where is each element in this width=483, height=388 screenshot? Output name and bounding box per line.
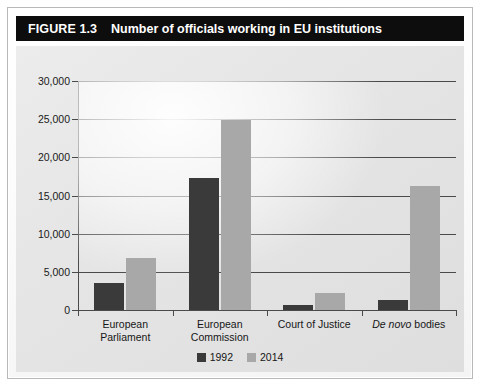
y-axis-tick-label: 20,000 (18, 151, 70, 163)
bar-2014-0 (126, 258, 156, 310)
chart-plot-area: 30,00025,00020,00015,00010,0005,0000 Eur… (16, 46, 464, 372)
legend-item-1992[interactable]: 1992 (197, 351, 233, 363)
chart-legend: 19922014 (16, 351, 464, 363)
bar-2014-1 (221, 120, 251, 310)
category-label-italic: De novo (372, 318, 411, 330)
x-axis-tick (173, 310, 174, 316)
bar-1992-1 (189, 178, 219, 310)
y-axis-tick-label: 0 (18, 304, 70, 316)
category-label-3: De novo bodies (362, 318, 457, 331)
bar-1992-0 (94, 283, 124, 310)
y-axis-tick-label: 10,000 (18, 228, 70, 240)
y-axis-tick-label: 5,000 (18, 266, 70, 278)
legend-swatch-icon (247, 353, 256, 362)
x-axis-tick (78, 310, 79, 316)
bar-2014-2 (315, 293, 345, 310)
x-axis-tick (456, 310, 457, 316)
x-axis-tick (362, 310, 363, 316)
category-label-0: EuropeanParliament (78, 318, 173, 344)
y-axis-tick-label: 30,000 (18, 75, 70, 87)
y-axis-tick-label: 25,000 (18, 113, 70, 125)
figure-title: Number of officials working in EU instit… (111, 22, 382, 36)
figure-card: FIGURE 1.3 Number of officials working i… (7, 7, 473, 379)
figure-number: FIGURE 1.3 (28, 22, 97, 36)
legend-swatch-icon (197, 353, 206, 362)
legend-label: 2014 (260, 351, 283, 363)
bars-container (78, 81, 456, 310)
y-axis-tick-label: 15,000 (18, 190, 70, 202)
category-label-2: Court of Justice (267, 318, 362, 331)
bar-2014-3 (410, 186, 440, 310)
x-axis-tick (267, 310, 268, 316)
bar-1992-3 (378, 300, 408, 310)
legend-label: 1992 (210, 351, 233, 363)
category-label-1: EuropeanCommission (173, 318, 268, 344)
figure-title-bar: FIGURE 1.3 Number of officials working i… (16, 16, 464, 41)
legend-item-2014[interactable]: 2014 (247, 351, 283, 363)
bar-1992-2 (283, 305, 313, 310)
y-axis-labels: 30,00025,00020,00015,00010,0005,0000 (16, 81, 70, 311)
